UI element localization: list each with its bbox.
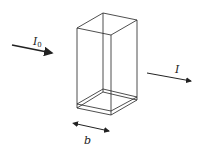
transmitted-beam-arrow	[147, 73, 191, 81]
cuvette-diagram: I0 I b	[0, 0, 204, 149]
cuvette	[77, 13, 137, 115]
incident-intensity-label: I0	[32, 35, 42, 49]
path-length-arrow	[77, 124, 109, 131]
transmitted-intensity-label: I	[174, 63, 180, 76]
incident-beam-arrow	[12, 45, 52, 53]
path-length-label: b	[84, 134, 91, 147]
